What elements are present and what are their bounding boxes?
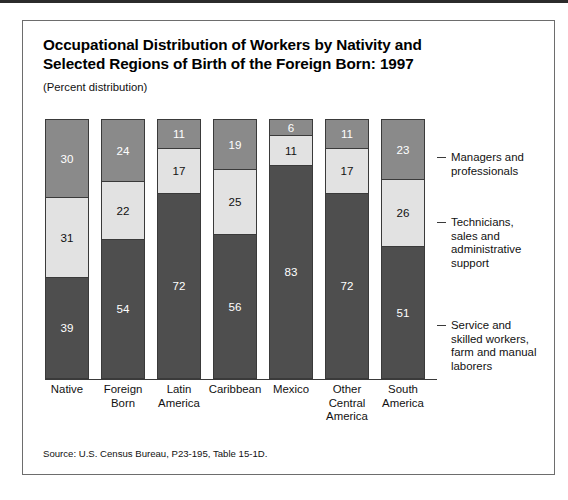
bar-segment-service[interactable]: 54 bbox=[101, 240, 145, 379]
x-axis-line bbox=[45, 379, 437, 380]
x-axis-label-south-america: South America bbox=[365, 383, 441, 410]
bar-segment-managers[interactable]: 11 bbox=[325, 119, 369, 149]
bar-value-technicians: 31 bbox=[61, 232, 74, 244]
chart-title-line-2: Selected Regions of Birth of the Foreign… bbox=[43, 55, 414, 72]
bar-segment-managers[interactable]: 11 bbox=[157, 119, 201, 149]
x-label-line-1: Latin bbox=[167, 383, 192, 395]
legend-label-line-1: Service and bbox=[451, 319, 511, 331]
bar-segment-managers[interactable]: 19 bbox=[213, 119, 257, 170]
legend-label-line-2: sales and bbox=[451, 230, 500, 242]
legend-leader-dash-icon bbox=[437, 325, 446, 326]
bar-value-service: 51 bbox=[397, 307, 410, 319]
bar-value-managers: 6 bbox=[288, 122, 294, 134]
bar-value-managers: 19 bbox=[229, 139, 242, 151]
bar-value-technicians: 25 bbox=[229, 196, 242, 208]
chart-subtitle: (Percent distribution) bbox=[43, 80, 503, 95]
source-note: Source: U.S. Census Bureau, P23-195, Tab… bbox=[43, 447, 267, 460]
bar-value-technicians: 17 bbox=[341, 165, 354, 177]
bar-segment-technicians[interactable]: 11 bbox=[269, 136, 313, 165]
bar-segment-technicians[interactable]: 25 bbox=[213, 170, 257, 235]
legend-leader-dash-icon bbox=[437, 222, 446, 223]
bar-value-technicians: 17 bbox=[173, 165, 186, 177]
bar-value-service: 54 bbox=[117, 303, 130, 315]
bar-column-caribbean[interactable]: 19 25 56 bbox=[213, 119, 257, 379]
bar-segment-service[interactable]: 39 bbox=[45, 278, 89, 379]
bar-value-managers: 11 bbox=[173, 128, 185, 140]
x-label-line-2: America bbox=[158, 397, 200, 409]
bar-column-other-central-america[interactable]: 11 17 72 bbox=[325, 119, 369, 379]
bar-value-service: 72 bbox=[173, 280, 186, 292]
legend-leader-dash-icon bbox=[437, 157, 446, 158]
title-block: Occupational Distribution of Workers by … bbox=[43, 35, 503, 95]
bar-segment-service[interactable]: 72 bbox=[157, 194, 201, 379]
chart-legend: Managers and professionals Technicians, … bbox=[437, 119, 567, 389]
legend-label-line-2: skilled workers, bbox=[451, 333, 529, 345]
bar-segment-service[interactable]: 56 bbox=[213, 235, 257, 379]
x-label-line-2: Central bbox=[329, 397, 366, 409]
bar-segment-managers[interactable]: 23 bbox=[381, 119, 425, 180]
legend-label-line-3: farm and manual bbox=[451, 346, 536, 358]
bar-segment-technicians[interactable]: 26 bbox=[381, 180, 425, 248]
x-label-line-1: Native bbox=[51, 383, 83, 395]
bar-value-service: 39 bbox=[61, 322, 74, 334]
page-title: Occupational Distribution of Workers by … bbox=[43, 35, 503, 73]
bar-segment-managers[interactable]: 24 bbox=[101, 119, 145, 182]
legend-label-line-1: Managers and bbox=[451, 151, 524, 163]
bar-column-south-america[interactable]: 23 26 51 bbox=[381, 119, 425, 379]
bar-segment-service[interactable]: 72 bbox=[325, 194, 369, 379]
chart-title-line-1: Occupational Distribution of Workers by … bbox=[43, 36, 422, 53]
bar-value-technicians: 22 bbox=[117, 205, 130, 217]
bar-segment-technicians[interactable]: 22 bbox=[101, 182, 145, 239]
x-label-line-1: Foreign bbox=[104, 383, 143, 395]
legend-entry-technicians[interactable]: Technicians, sales and administrative su… bbox=[437, 216, 567, 270]
bar-segment-managers[interactable]: 30 bbox=[45, 119, 89, 198]
legend-label-line-4: laborers bbox=[451, 360, 492, 372]
x-label-line-1: Other bbox=[333, 383, 362, 395]
x-axis-labels: Native Foreign Born Latin America Caribb… bbox=[45, 383, 445, 443]
x-label-line-1: South bbox=[388, 383, 418, 395]
x-label-line-3: America bbox=[326, 410, 368, 422]
bar-value-service: 83 bbox=[285, 266, 298, 278]
legend-label-technicians: Technicians, sales and administrative su… bbox=[451, 216, 567, 270]
x-label-line-1: Mexico bbox=[273, 383, 309, 395]
chart-plot-area: 30 31 39 24 22 54 11 17 bbox=[45, 119, 435, 379]
page-top-rule bbox=[0, 0, 568, 3]
legend-label-service: Service and skilled workers, farm and ma… bbox=[451, 319, 567, 373]
legend-label-line-1: Technicians, bbox=[451, 216, 514, 228]
x-label-line-2: Born bbox=[111, 397, 135, 409]
legend-label-managers: Managers and professionals bbox=[451, 151, 567, 178]
legend-label-line-4: support bbox=[451, 257, 489, 269]
bar-value-service: 56 bbox=[229, 301, 242, 313]
bar-value-managers: 30 bbox=[61, 153, 74, 165]
figure-frame: Occupational Distribution of Workers by … bbox=[22, 20, 555, 475]
bar-segment-managers[interactable]: 6 bbox=[269, 119, 313, 136]
bar-value-technicians: 11 bbox=[285, 145, 297, 157]
bar-value-managers: 24 bbox=[117, 145, 130, 157]
legend-label-line-2: professionals bbox=[451, 165, 518, 177]
bar-column-mexico[interactable]: 6 11 83 bbox=[269, 119, 313, 379]
bar-segment-technicians[interactable]: 17 bbox=[157, 149, 201, 194]
bar-segment-service[interactable]: 51 bbox=[381, 247, 425, 379]
bar-segment-technicians[interactable]: 31 bbox=[45, 198, 89, 278]
bar-column-latin-america[interactable]: 11 17 72 bbox=[157, 119, 201, 379]
bar-column-foreign-born[interactable]: 24 22 54 bbox=[101, 119, 145, 379]
bar-value-service: 72 bbox=[341, 280, 354, 292]
legend-entry-managers[interactable]: Managers and professionals bbox=[437, 151, 567, 178]
x-label-line-2: America bbox=[382, 397, 424, 409]
legend-entry-service[interactable]: Service and skilled workers, farm and ma… bbox=[437, 319, 567, 373]
bar-column-native[interactable]: 30 31 39 bbox=[45, 119, 89, 379]
bar-segment-technicians[interactable]: 17 bbox=[325, 149, 369, 194]
legend-label-line-3: administrative bbox=[451, 243, 521, 255]
bar-segment-service[interactable]: 83 bbox=[269, 166, 313, 379]
bar-value-managers: 11 bbox=[341, 128, 353, 140]
bar-value-technicians: 26 bbox=[397, 207, 410, 219]
bar-value-managers: 23 bbox=[397, 144, 410, 156]
